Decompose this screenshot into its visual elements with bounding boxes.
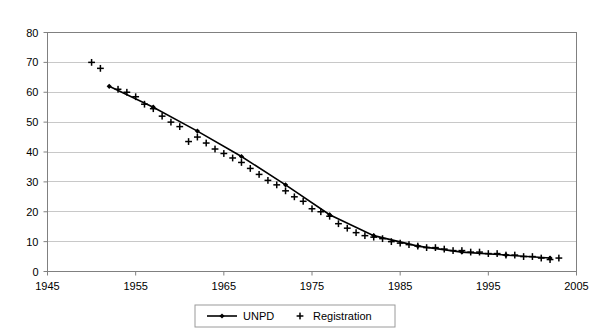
y-axis-tick-labels: 01020304050607080 <box>26 27 47 278</box>
series-registration <box>88 59 562 263</box>
marker-plus-v <box>144 101 146 108</box>
marker-plus <box>203 140 210 147</box>
marker-plus-v <box>285 187 287 194</box>
marker-plus-v <box>479 249 481 256</box>
marker-plus-v <box>391 238 393 245</box>
marker-plus-v <box>320 208 322 215</box>
marker-plus-v <box>232 155 234 162</box>
marker-plus-v <box>170 119 172 126</box>
marker-plus <box>423 244 430 251</box>
marker-plus-v <box>347 225 349 232</box>
y-tick-label-0: 0 <box>32 266 38 278</box>
marker-plus <box>467 249 474 256</box>
marker-plus <box>185 138 192 145</box>
marker-plus-v <box>540 255 542 262</box>
marker-plus-v <box>364 232 366 239</box>
marker-plus-v <box>426 244 428 251</box>
y-tick-label-60: 60 <box>26 86 38 98</box>
marker-plus-v <box>223 150 225 157</box>
marker-plus <box>476 249 483 256</box>
marker-plus <box>353 229 360 236</box>
marker-plus-v <box>299 313 301 320</box>
marker-plus-v <box>452 247 454 254</box>
marker-plus <box>229 155 236 162</box>
marker-plus <box>247 165 254 172</box>
marker-plus <box>414 243 421 250</box>
chart-legend: UNPDRegistration <box>195 305 395 327</box>
unpd-line <box>109 86 550 258</box>
marker-plus <box>511 252 518 259</box>
marker-plus <box>450 247 457 254</box>
y-tick-label-80: 80 <box>26 27 38 39</box>
marker-plus-v <box>399 240 401 247</box>
marker-plus <box>494 250 501 257</box>
marker-plus-v <box>461 247 463 254</box>
marker-plus-v <box>435 244 437 251</box>
marker-plus-v <box>549 256 551 263</box>
y-tick-label-10: 10 <box>26 236 38 248</box>
marker-plus <box>406 241 413 248</box>
marker-diamond <box>107 84 112 89</box>
line-chart: 01020304050607080 1945195519651975198519… <box>0 0 590 334</box>
marker-plus-v <box>135 93 137 100</box>
marker-plus-v <box>179 123 181 130</box>
marker-plus-v <box>382 235 384 242</box>
marker-plus-v <box>126 89 128 96</box>
x-axis-tick-labels: 1945195519651975198519952005 <box>35 272 588 292</box>
marker-plus <box>520 253 527 260</box>
x-tick-label-1995: 1995 <box>476 280 500 292</box>
marker-plus <box>379 235 386 242</box>
marker-plus-v <box>488 250 490 257</box>
marker-plus-v <box>338 220 340 227</box>
marker-plus-v <box>417 243 419 250</box>
y-tick-label-40: 40 <box>26 146 38 158</box>
marker-plus <box>282 187 289 194</box>
marker-plus-v <box>100 65 102 72</box>
x-tick-label-1975: 1975 <box>300 280 324 292</box>
x-tick-label-1965: 1965 <box>212 280 236 292</box>
marker-plus <box>123 89 130 96</box>
marker-plus-v <box>250 165 252 172</box>
marker-plus <box>256 171 263 178</box>
marker-plus <box>317 208 324 215</box>
marker-plus-v <box>294 193 296 200</box>
marker-plus <box>168 119 175 126</box>
marker-plus-v <box>329 213 331 220</box>
marker-plus-v <box>205 140 207 147</box>
marker-plus-v <box>241 159 243 166</box>
marker-plus <box>220 150 227 157</box>
marker-plus-v <box>161 113 163 120</box>
marker-plus-v <box>214 146 216 153</box>
marker-plus-v <box>558 255 560 262</box>
marker-plus-v <box>373 234 375 241</box>
marker-plus-v <box>117 86 119 93</box>
marker-plus-v <box>258 171 260 178</box>
marker-plus <box>176 123 183 130</box>
marker-plus <box>194 134 201 141</box>
x-tick-label-1955: 1955 <box>123 280 147 292</box>
marker-plus <box>441 246 448 253</box>
legend-label-registration: Registration <box>313 310 372 322</box>
series-unpd <box>107 84 553 261</box>
legend-label-unpd: UNPD <box>243 310 274 322</box>
marker-plus-v <box>153 105 155 112</box>
x-tick-label-2005: 2005 <box>564 280 588 292</box>
marker-plus-v <box>267 177 269 184</box>
marker-plus-v <box>355 229 357 236</box>
marker-plus-v <box>532 253 534 260</box>
marker-plus-v <box>311 205 313 212</box>
y-tick-label-50: 50 <box>26 116 38 128</box>
marker-plus-v <box>444 246 446 253</box>
chart-container: 01020304050607080 1945195519651975198519… <box>0 0 590 334</box>
marker-plus <box>97 65 104 72</box>
marker-plus-v <box>470 249 472 256</box>
marker-plus-v <box>496 250 498 257</box>
x-tick-label-1945: 1945 <box>35 280 59 292</box>
marker-plus <box>485 250 492 257</box>
marker-plus-v <box>188 138 190 145</box>
marker-plus <box>335 220 342 227</box>
marker-plus <box>432 244 439 251</box>
marker-plus <box>291 193 298 200</box>
marker-plus <box>344 225 351 232</box>
marker-plus-v <box>523 253 525 260</box>
